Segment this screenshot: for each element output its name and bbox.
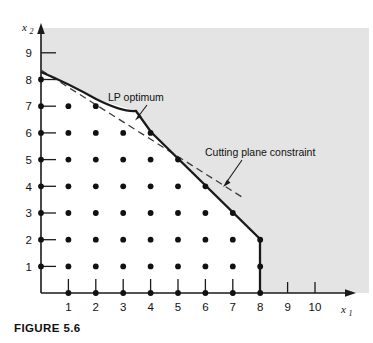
lattice-point	[203, 183, 209, 189]
lattice-point	[203, 237, 209, 243]
y-axis-label: x	[21, 21, 27, 33]
lattice-point	[148, 264, 154, 270]
lattice-point	[203, 210, 209, 216]
lattice-point	[257, 290, 263, 296]
x-tick-label-4: 4	[147, 301, 154, 313]
lattice-point	[38, 183, 44, 189]
figure-container: 1 2 3 4 5 6 7 8 9 1 2 3 4 5 6 7 8 9 10 x…	[0, 0, 373, 343]
lattice-point	[230, 264, 236, 270]
y-tick-label-6: 6	[26, 127, 32, 139]
lattice-point	[38, 157, 44, 163]
lattice-point	[93, 157, 99, 163]
lattice-point	[230, 290, 236, 296]
lattice-point	[203, 290, 209, 296]
lattice-point	[120, 264, 126, 270]
y-tick-label-7: 7	[26, 100, 32, 112]
lattice-point	[148, 237, 154, 243]
lattice-point	[66, 290, 72, 296]
x-axis-label-subscript: 1	[349, 309, 353, 318]
y-tick-label-9: 9	[26, 47, 32, 59]
lattice-point	[93, 290, 99, 296]
lattice-point	[38, 264, 44, 270]
y-axis-label-subscript: 2	[30, 27, 34, 36]
x-tick-label-10: 10	[309, 301, 322, 313]
y-tick-label-4: 4	[26, 181, 33, 193]
lattice-point	[93, 130, 99, 136]
y-axis-tick-labels: 1 2 3 4 5 6 7 8 9	[26, 47, 33, 273]
lattice-point	[230, 210, 236, 216]
lattice-point	[175, 157, 181, 163]
lattice-point	[148, 183, 154, 189]
lattice-point	[148, 290, 154, 296]
x-tick-label-7: 7	[230, 301, 236, 313]
x-tick-label-5: 5	[175, 301, 181, 313]
x-axis-label: x	[340, 303, 346, 315]
lattice-point	[120, 183, 126, 189]
y-tick-label-8: 8	[26, 74, 32, 86]
lattice-point	[120, 130, 126, 136]
plot-area: 1 2 3 4 5 6 7 8 9 1 2 3 4 5 6 7 8 9 10 x…	[0, 0, 373, 343]
lattice-point	[66, 210, 72, 216]
lattice-point	[175, 290, 181, 296]
lattice-point	[66, 103, 72, 109]
lattice-point	[175, 237, 181, 243]
lattice-point	[66, 130, 72, 136]
lattice-point	[38, 77, 44, 83]
figure-caption: FIGURE 5.6	[14, 322, 81, 334]
lattice-point	[148, 210, 154, 216]
lattice-point	[93, 210, 99, 216]
lattice-point	[66, 264, 72, 270]
lattice-point	[38, 103, 44, 109]
x-tick-label-3: 3	[120, 301, 126, 313]
lattice-point	[148, 157, 154, 163]
lattice-point	[203, 264, 209, 270]
lattice-point	[175, 210, 181, 216]
y-tick-label-3: 3	[26, 207, 32, 219]
y-tick-label-5: 5	[26, 154, 32, 166]
y-tick-label-1: 1	[26, 261, 32, 273]
lattice-point	[38, 130, 44, 136]
cutting-plane-label: Cutting plane constraint	[205, 146, 315, 158]
lattice-point	[93, 183, 99, 189]
lattice-point	[38, 210, 44, 216]
x-tick-label-1: 1	[65, 301, 71, 313]
lattice-point	[120, 290, 126, 296]
x-tick-label-6: 6	[202, 301, 208, 313]
lattice-point	[230, 237, 236, 243]
infeasible-shaded-region	[41, 28, 369, 293]
lattice-point	[148, 130, 154, 136]
y-tick-label-2: 2	[26, 234, 32, 246]
x-axis-tick-labels: 1 2 3 4 5 6 7 8 9 10	[65, 301, 321, 313]
lattice-point	[66, 237, 72, 243]
lattice-point	[66, 157, 72, 163]
lattice-point	[257, 237, 263, 243]
x-tick-label-9: 9	[284, 301, 290, 313]
lattice-point	[93, 237, 99, 243]
lattice-point	[93, 103, 99, 109]
lattice-point	[120, 210, 126, 216]
x-tick-label-8: 8	[257, 301, 263, 313]
x-tick-label-2: 2	[93, 301, 99, 313]
lattice-point	[38, 237, 44, 243]
lattice-point	[66, 183, 72, 189]
lattice-point	[175, 264, 181, 270]
lattice-point	[257, 264, 263, 270]
lp-optimum-label: LP optimum	[108, 91, 164, 103]
lattice-point	[120, 237, 126, 243]
lattice-point	[120, 157, 126, 163]
lattice-point	[93, 264, 99, 270]
lattice-point	[175, 183, 181, 189]
